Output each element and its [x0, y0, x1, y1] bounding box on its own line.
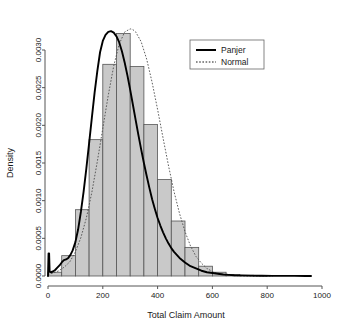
histogram-bar	[89, 140, 103, 276]
histogram-bar	[144, 125, 158, 276]
y-tick-label: 0.0015	[34, 150, 43, 175]
legend-label-panjer: Panjer	[221, 45, 246, 55]
y-tick-label: 0.0020	[34, 113, 43, 138]
histogram-bar	[171, 221, 185, 276]
x-tick-label: 400	[151, 291, 165, 300]
y-axis-title: Density	[5, 147, 15, 178]
y-tick-label: 0.0005	[34, 226, 43, 251]
y-tick-label: 0.0000	[34, 263, 43, 288]
x-axis-title: Total Claim Amount	[147, 310, 225, 320]
x-tick-label: 0	[46, 291, 51, 300]
x-axis: 02004006008001000	[46, 286, 332, 300]
histogram-bar	[75, 210, 89, 276]
histogram-bar	[103, 64, 117, 276]
density-histogram-figure: 0.00000.00050.00100.00150.00200.00250.00…	[0, 0, 339, 328]
x-tick-label: 600	[206, 291, 220, 300]
y-tick-label: 0.0025	[34, 75, 43, 100]
y-tick-label: 0.0030	[34, 37, 43, 62]
histogram-bar	[158, 180, 172, 276]
legend: PanjerNormal	[190, 40, 264, 69]
histogram-bars	[48, 33, 267, 276]
chart-canvas: 0.00000.00050.00100.00150.00200.00250.00…	[0, 0, 339, 328]
y-tick-label: 0.0010	[34, 188, 43, 213]
x-tick-label: 800	[261, 291, 275, 300]
y-axis: 0.00000.00050.00100.00150.00200.00250.00…	[34, 37, 45, 288]
x-tick-label: 200	[96, 291, 110, 300]
histogram-bar	[185, 247, 199, 276]
histogram-bar	[117, 33, 131, 276]
x-tick-label: 1000	[313, 291, 331, 300]
legend-label-normal: Normal	[221, 57, 249, 67]
